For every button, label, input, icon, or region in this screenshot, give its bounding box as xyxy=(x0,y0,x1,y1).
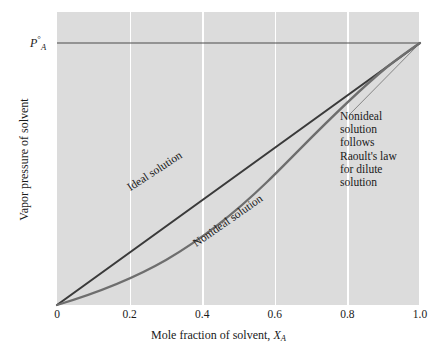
x-axis-subscript: A xyxy=(281,333,286,343)
annotation-line-2: solution xyxy=(340,123,435,136)
x-axis-title-text: Mole fraction of solvent, xyxy=(151,328,273,342)
x-tick-0.2: 0.2 xyxy=(122,307,136,321)
annotation-line-6: solution xyxy=(340,176,435,189)
x-tick-0.6: 0.6 xyxy=(268,307,282,321)
x-axis-variable: X xyxy=(273,328,280,342)
annotation-line-3: follows xyxy=(340,136,435,149)
annotation-line-4: Raoult's law xyxy=(340,150,435,163)
vapor-pressure-chart: P°A Ideal solution Nonideal solution Non… xyxy=(0,0,437,351)
y-axis-reference-label: P°A xyxy=(30,33,46,53)
annotation-leader-line xyxy=(349,43,420,115)
x-tick-1.0: 1.0 xyxy=(413,307,427,321)
x-axis-tick-row: 0 0.2 0.4 0.6 0.8 1.0 xyxy=(57,307,420,323)
p-subscript-a: A xyxy=(41,42,46,52)
annotation-line-5: for dilute xyxy=(340,163,435,176)
y-axis-title: Vapor pressure of solvent xyxy=(17,50,32,270)
x-tick-0: 0 xyxy=(54,307,60,321)
x-tick-0.8: 0.8 xyxy=(340,307,354,321)
annotation-nonideal-raoult: Nonideal solution follows Raoult's law f… xyxy=(340,110,435,189)
annotation-line-1: Nonideal xyxy=(340,110,435,123)
x-tick-0.4: 0.4 xyxy=(195,307,209,321)
x-axis-title: Mole fraction of solvent, XA xyxy=(0,328,437,343)
